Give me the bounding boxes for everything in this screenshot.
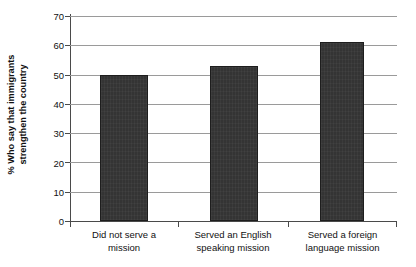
y-tickmark-50 <box>65 75 70 76</box>
x-tickmark-2 <box>288 221 289 227</box>
y-tick-label-0: 0 <box>59 216 64 227</box>
y-axis-title-line-2: strengthen the country <box>18 54 30 174</box>
x-category-label-2: Served a foreign language mission <box>288 229 397 254</box>
y-tickmark-40 <box>65 104 70 105</box>
x-category-label-1-line-2: speaking mission <box>178 242 288 255</box>
x-category-label-2-line-1: Served a foreign <box>288 229 397 242</box>
x-axis-line <box>70 221 397 222</box>
bar-chart: % Who say that immigrants strengthen the… <box>0 0 416 267</box>
y-tick-label-50: 50 <box>53 70 64 81</box>
x-category-label-0-line-1: Did not serve a <box>70 229 178 242</box>
x-category-label-1-line-1: Served an English <box>178 229 288 242</box>
gridline-70 <box>70 16 397 17</box>
bar-served-a-foreign-language-mission <box>320 42 364 221</box>
x-category-label-0: Did not serve a mission <box>70 229 178 254</box>
y-tick-label-10: 10 <box>53 187 64 198</box>
y-tickmark-10 <box>65 192 70 193</box>
bar-did-not-serve-a-mission <box>100 75 148 221</box>
y-tick-label-30: 30 <box>53 128 64 139</box>
x-tickmark-3 <box>396 221 397 227</box>
y-tickmark-30 <box>65 133 70 134</box>
plot-area <box>70 16 397 221</box>
y-tickmark-60 <box>65 45 70 46</box>
y-tick-label-20: 20 <box>53 158 64 169</box>
bar-served-an-english-speaking-mission <box>210 66 258 221</box>
y-axis-tick-labels: 70 60 50 40 30 20 10 0 <box>38 0 66 228</box>
y-tickmark-70 <box>65 16 70 17</box>
y-tick-label-70: 70 <box>53 11 64 22</box>
y-tickmark-20 <box>65 162 70 163</box>
x-category-label-1: Served an English speaking mission <box>178 229 288 254</box>
x-axis-category-labels: Did not serve a mission Served an Englis… <box>70 229 397 267</box>
y-axis-title: % Who say that immigrants strengthen the… <box>0 0 36 228</box>
x-tickmark-1 <box>178 221 179 227</box>
y-axis-title-line-1: % Who say that immigrants <box>7 54 19 174</box>
x-category-label-2-line-2: language mission <box>288 242 397 255</box>
x-tickmark-0 <box>70 221 71 227</box>
x-category-label-0-line-2: mission <box>70 242 178 255</box>
y-tick-label-40: 40 <box>53 99 64 110</box>
y-tick-label-60: 60 <box>53 40 64 51</box>
